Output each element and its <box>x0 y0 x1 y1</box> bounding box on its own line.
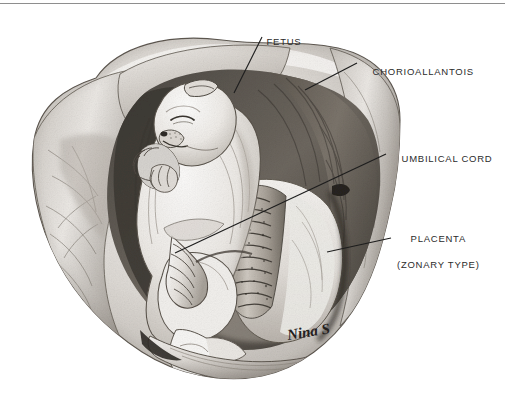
label-umbilical-cord-text: UMBILICAL CORD <box>402 153 493 164</box>
label-fetus-text: FETUS <box>267 36 302 47</box>
fetus-second-paw <box>150 165 178 193</box>
label-chorioallantois: CHORIOALLANTOIS <box>359 52 474 91</box>
label-fetus: FETUS <box>253 22 301 61</box>
label-chorioallantois-text: CHORIOALLANTOIS <box>373 66 474 77</box>
label-placenta-subtext: (ZONARY TYPE) <box>397 258 480 271</box>
label-placenta: PLACENTA (ZONARY TYPE) <box>397 219 480 297</box>
label-umbilical-cord: UMBILICAL CORD <box>388 139 492 178</box>
figure-root: Nina S FETUS CHORIOALLANTOIS UMBILICAL C… <box>0 0 505 401</box>
chorioallantoic-sac <box>32 38 400 382</box>
fetus-nose <box>161 132 168 137</box>
label-placenta-text: PLACENTA <box>411 233 466 244</box>
